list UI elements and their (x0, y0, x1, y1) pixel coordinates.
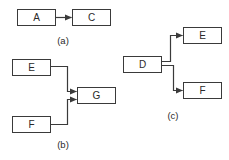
edge-b-E-to-G (51, 67, 77, 92)
node-b-F: F (13, 117, 51, 133)
caption-a: (a) (57, 35, 69, 46)
node-c-E: E (184, 28, 222, 44)
node-b-G: G (78, 88, 116, 104)
panel-a: A C (a) (18, 10, 111, 46)
node-c-F: F (184, 83, 222, 99)
node-label: C (88, 12, 95, 23)
edge-c-D-to-F (162, 66, 183, 91)
node-c-D: D (124, 57, 162, 73)
node-label: D (139, 59, 146, 70)
edge-c-D-to-E (162, 36, 183, 62)
node-label: E (199, 30, 206, 41)
node-b-E: E (13, 60, 51, 76)
node-a-A: A (18, 10, 56, 26)
node-label: G (93, 90, 101, 101)
node-label: A (33, 12, 40, 23)
diagram-canvas: A C (a) E F G (b) D (0, 0, 229, 160)
node-label: E (28, 62, 35, 73)
node-label: F (28, 119, 34, 130)
edge-b-F-to-G (51, 100, 77, 125)
caption-c: (c) (167, 110, 178, 121)
panel-b: E F G (b) (13, 60, 116, 150)
panel-c: D E F (c) (124, 28, 222, 121)
node-a-C: C (73, 10, 111, 26)
caption-b: (b) (57, 139, 69, 150)
node-label: F (199, 85, 205, 96)
